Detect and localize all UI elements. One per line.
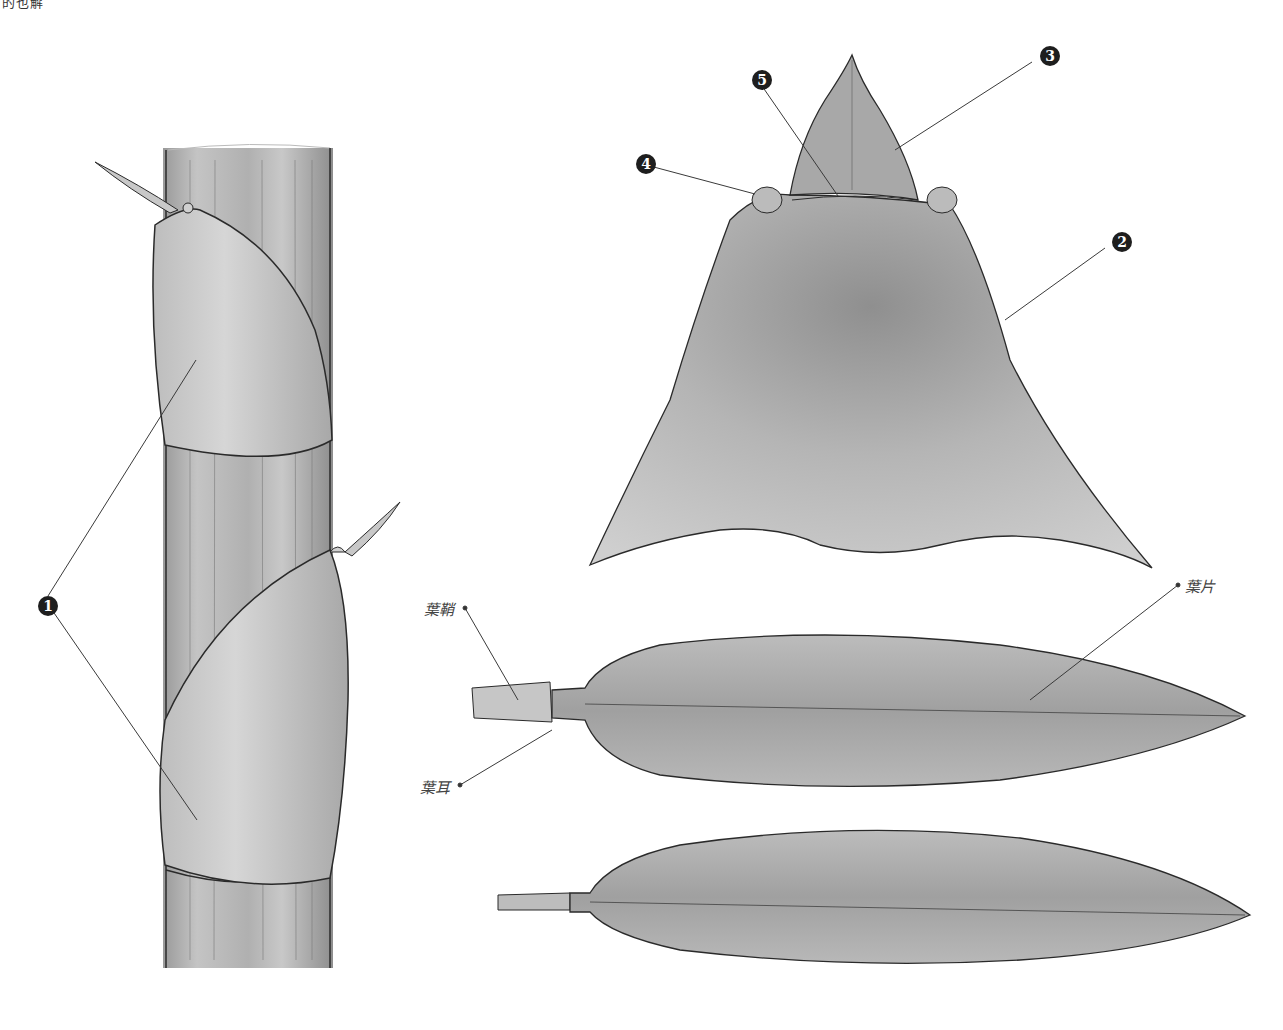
sheath-spread — [590, 55, 1152, 568]
marker-4: 4 — [636, 154, 656, 174]
label-auricle: 葉耳 — [420, 776, 450, 797]
leaf-lower — [498, 830, 1250, 963]
marker-2: 2 — [1112, 232, 1132, 252]
label-sheath: 葉鞘 — [424, 598, 454, 619]
label-blade: 葉片 — [1185, 575, 1215, 596]
leaf-upper — [472, 635, 1245, 786]
marker-3: 3 — [1040, 46, 1060, 66]
marker-1: 1 — [38, 596, 58, 616]
marker-5: 5 — [752, 70, 772, 90]
